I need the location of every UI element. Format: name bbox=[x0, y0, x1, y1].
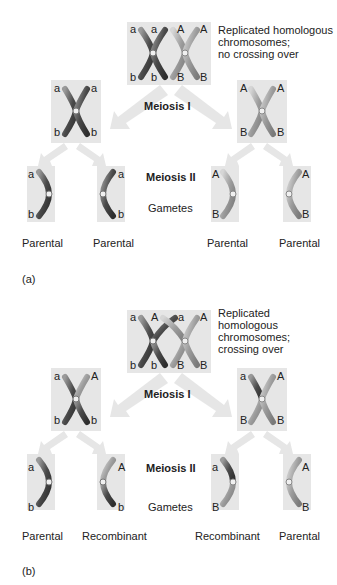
allele-label: B bbox=[240, 127, 247, 138]
allele-label: a bbox=[118, 169, 124, 180]
allele-label: a bbox=[130, 24, 136, 35]
allele-label: b bbox=[130, 360, 136, 371]
allele-label: a bbox=[91, 83, 97, 94]
arrow-meiosis2-b2 bbox=[76, 431, 106, 455]
allele-label: A bbox=[177, 24, 184, 35]
allele-label: a bbox=[28, 462, 34, 473]
panel-label: (b) bbox=[22, 565, 35, 577]
allele-label: a bbox=[28, 169, 34, 180]
allele-label: b bbox=[54, 127, 60, 138]
allele-label: a bbox=[54, 371, 60, 382]
arrow-meiosis2-b4 bbox=[263, 431, 293, 455]
gametes-label: Gametes bbox=[148, 501, 193, 513]
allele-label: B bbox=[212, 502, 219, 513]
allele-label: b bbox=[151, 72, 157, 83]
allele-label: A bbox=[302, 462, 309, 473]
gamete-type-label: Parental bbox=[207, 237, 248, 249]
allele-label: b bbox=[91, 127, 97, 138]
allele-label: A bbox=[91, 371, 98, 382]
allele-label: A bbox=[200, 312, 207, 323]
stage-label-meiosis2: Meiosis II bbox=[146, 462, 196, 474]
allele-label: B bbox=[177, 72, 184, 83]
allele-label: b bbox=[130, 72, 136, 83]
allele-label: A bbox=[118, 462, 125, 473]
stage-description: Replicated homologous chromosomes; cross… bbox=[218, 307, 290, 355]
allele-label: b bbox=[151, 360, 157, 371]
allele-label: b bbox=[54, 415, 60, 426]
arrow-meiosis2-a3 bbox=[225, 143, 255, 167]
arrow-meiosis2-a4 bbox=[263, 143, 293, 167]
allele-label: b bbox=[91, 415, 97, 426]
gamete-type-label: Parental bbox=[279, 530, 320, 542]
arrow-meiosis2-b3 bbox=[225, 431, 255, 455]
chromosome-pair-icon bbox=[127, 22, 211, 85]
allele-label: B bbox=[277, 127, 284, 138]
arrow-meiosis2-a1 bbox=[38, 143, 68, 167]
allele-label: a bbox=[130, 312, 136, 323]
allele-label: A bbox=[240, 83, 247, 94]
allele-label: b bbox=[118, 209, 124, 220]
allele-label: B bbox=[200, 360, 207, 371]
gamete-type-label: Parental bbox=[22, 237, 63, 249]
allele-label: B bbox=[200, 72, 207, 83]
allele-label: b bbox=[28, 502, 34, 513]
stage-label-meiosis2: Meiosis II bbox=[146, 171, 196, 183]
allele-label: A bbox=[277, 83, 284, 94]
allele-label: a bbox=[212, 462, 218, 473]
allele-label: A bbox=[200, 24, 207, 35]
allele-label: A bbox=[212, 169, 219, 180]
crossing-over-chromosomes-icon bbox=[127, 310, 211, 373]
allele-label: a bbox=[151, 24, 157, 35]
allele-label: B bbox=[212, 209, 219, 220]
arrow-meiosis2-a2 bbox=[76, 143, 106, 167]
allele-label: a bbox=[178, 312, 184, 323]
gamete-type-label: Parental bbox=[279, 237, 320, 249]
allele-label: B bbox=[177, 360, 184, 371]
gamete-type-label: Recombinant bbox=[195, 530, 260, 542]
allele-label: b bbox=[118, 502, 124, 513]
gamete-type-label: Parental bbox=[93, 237, 134, 249]
allele-label: a bbox=[54, 83, 60, 94]
stage-label-meiosis1: Meiosis I bbox=[144, 100, 190, 112]
gamete-type-label: Recombinant bbox=[82, 530, 147, 542]
panel-label: (a) bbox=[22, 273, 35, 285]
allele-label: a bbox=[240, 371, 246, 382]
allele-label: B bbox=[302, 209, 309, 220]
allele-label: b bbox=[28, 209, 34, 220]
allele-label: A bbox=[277, 371, 284, 382]
allele-label: B bbox=[302, 502, 309, 513]
allele-label: A bbox=[302, 169, 309, 180]
allele-label: B bbox=[277, 415, 284, 426]
stage-description: Replicated homologous chromosomes; no cr… bbox=[218, 24, 333, 60]
gametes-label: Gametes bbox=[148, 202, 193, 214]
arrow-meiosis2-b1 bbox=[38, 431, 68, 455]
allele-label: B bbox=[240, 415, 247, 426]
gamete-type-label: Parental bbox=[22, 530, 63, 542]
stage-label-meiosis1: Meiosis I bbox=[144, 388, 190, 400]
allele-label: A bbox=[151, 312, 158, 323]
